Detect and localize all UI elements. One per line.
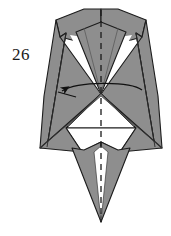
origami-diagram: 26 <box>0 0 171 236</box>
origami-figure <box>0 0 171 236</box>
